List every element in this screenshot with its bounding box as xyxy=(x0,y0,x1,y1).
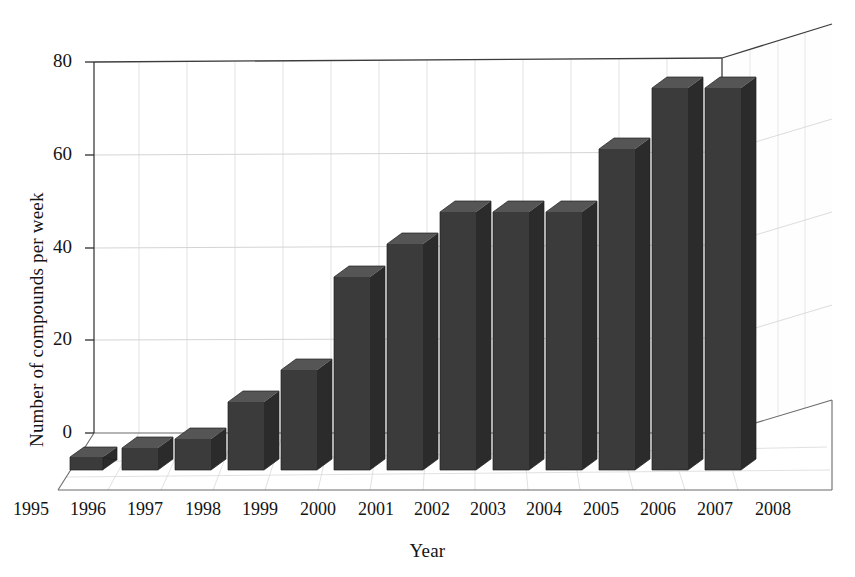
x-tick-label-2005: 2005 xyxy=(570,499,632,520)
bar-2002 xyxy=(440,201,491,470)
bar-2004 xyxy=(546,201,597,470)
x-tick-label-2006: 2006 xyxy=(627,499,689,520)
x-tick-label-2000: 2000 xyxy=(287,499,349,520)
bar-chart: 80 60 40 20 0 1995 1996 1997 1998 1999 2… xyxy=(0,0,855,577)
x-tick-label-2007: 2007 xyxy=(684,499,746,520)
bar-2000 xyxy=(334,266,385,470)
bar-1997 xyxy=(175,428,226,470)
x-axis-title: Year xyxy=(0,540,855,562)
x-tick-label-2001: 2001 xyxy=(345,499,407,520)
x-tick-label-2003: 2003 xyxy=(457,499,519,520)
bar-1998 xyxy=(228,391,279,470)
bar-1999 xyxy=(281,359,332,470)
x-tick-label-1996: 1996 xyxy=(57,499,119,520)
x-tick-label-1999: 1999 xyxy=(229,499,291,520)
x-tick-label-2008: 2008 xyxy=(742,499,804,520)
bar-2003 xyxy=(493,201,544,470)
y-tick-label-80: 80 xyxy=(32,50,72,72)
y-tick-label-60: 60 xyxy=(32,143,72,165)
x-tick-label-2004: 2004 xyxy=(513,499,575,520)
bar-2007 xyxy=(705,77,756,470)
y-axis-ticks xyxy=(85,62,94,433)
bar-2006 xyxy=(652,77,703,470)
bar-2001 xyxy=(387,233,438,470)
x-tick-label-1997: 1997 xyxy=(114,499,176,520)
plot-area xyxy=(0,0,855,577)
x-tick-label-1995: 1995 xyxy=(0,499,62,520)
y-axis-title: Number of compounds per week xyxy=(26,192,48,447)
x-tick-label-1998: 1998 xyxy=(172,499,234,520)
x-tick-label-2002: 2002 xyxy=(401,499,463,520)
bar-2005 xyxy=(599,138,650,470)
